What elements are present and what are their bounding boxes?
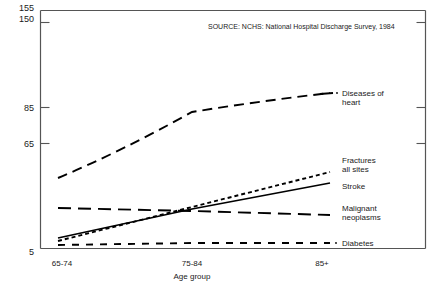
y-axis-ticks bbox=[41, 23, 426, 144]
series-label-stroke: Stroke bbox=[342, 182, 366, 191]
ytick-label-65: 65 bbox=[24, 139, 34, 149]
line-chart-canvas: 155 150 85 65 5 65-74 75-84 85+ Age grou… bbox=[0, 0, 437, 291]
ytick-label-5: 5 bbox=[29, 247, 34, 257]
xtick-label-75-84: 75-84 bbox=[182, 259, 203, 268]
series-label-stroke-text: Stroke bbox=[342, 182, 366, 191]
series-label-diseases-of-heart: Diseases of heart bbox=[320, 89, 385, 107]
series-label-malignant-line1: Malignant bbox=[342, 204, 377, 213]
leader-diseases-of-heart bbox=[320, 93, 333, 94]
ytick-label-150: 150 bbox=[19, 14, 34, 24]
series-label-fractures-line1: Fractures bbox=[342, 156, 376, 165]
series-diabetes bbox=[58, 243, 330, 245]
x-axis-title: Age group bbox=[174, 272, 211, 281]
series-label-malignant-line2: neoplasms bbox=[342, 213, 381, 222]
series-fractures-all-sites bbox=[58, 172, 330, 241]
series-label-malignant-neoplasms: Malignant neoplasms bbox=[342, 204, 381, 222]
ytick-label-85: 85 bbox=[24, 103, 34, 113]
xtick-label-85-plus: 85+ bbox=[315, 259, 329, 268]
series-diseases-of-heart bbox=[58, 93, 330, 178]
xtick-label-65-74: 65-74 bbox=[52, 259, 73, 268]
dataline-fractures-all-sites bbox=[58, 172, 330, 241]
series-label-diabetes: Diabetes bbox=[335, 239, 373, 248]
series-label-fractures-all-sites: Fractures all sites bbox=[342, 156, 376, 174]
dataline-diabetes bbox=[58, 243, 330, 245]
series-label-heart-line2: heart bbox=[342, 98, 361, 107]
series-stroke bbox=[58, 183, 330, 238]
leader-dot-diabetes bbox=[335, 242, 337, 244]
leader-dot-diseases-of-heart bbox=[336, 92, 338, 94]
series-label-heart-line1: Diseases of bbox=[342, 89, 385, 98]
dataline-diseases-of-heart bbox=[58, 93, 330, 178]
dataline-stroke bbox=[58, 183, 330, 238]
chart-figure: 155 150 85 65 5 65-74 75-84 85+ Age grou… bbox=[0, 0, 437, 291]
series-label-fractures-line2: all sites bbox=[342, 165, 369, 174]
source-annotation: SOURCE: NCHS: National Hospital Discharg… bbox=[208, 23, 395, 31]
series-label-diabetes-text: Diabetes bbox=[342, 239, 374, 248]
ytick-label-155: 155 bbox=[19, 3, 34, 13]
